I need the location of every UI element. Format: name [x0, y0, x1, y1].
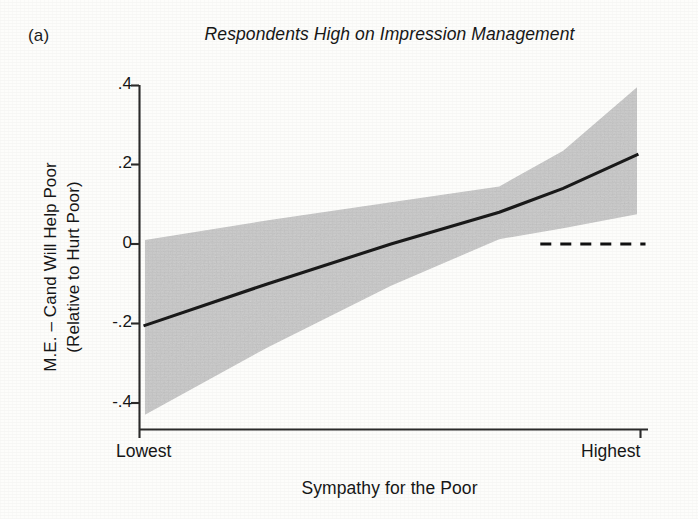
- figure-panel-a: (a) Respondents High on Impression Manag…: [0, 0, 698, 519]
- x-axis-ticks: [140, 430, 641, 438]
- plot-canvas: [0, 0, 698, 519]
- confidence-interval-band: [145, 87, 637, 414]
- y-axis-ticks: [131, 86, 139, 404]
